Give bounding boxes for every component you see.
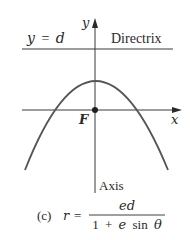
caption-eq: = [74, 208, 81, 223]
directrix-equation-lhs: y [26, 30, 36, 46]
axis-label: Axis [99, 178, 124, 193]
y-axis-label: y [81, 15, 90, 30]
directrix-equation-eq: = [41, 31, 49, 46]
directrix-equation-label: y = d [26, 30, 65, 46]
caption-denominator-theta: θ [154, 217, 162, 232]
caption-denominator-plus: + [105, 217, 112, 232]
caption-numerator: ed [119, 198, 135, 213]
focus-point [92, 107, 98, 113]
caption-denominator-one: 1 [92, 217, 99, 232]
directrix-label: Directrix [111, 31, 162, 46]
caption-denominator: 1 + e sin θ [92, 217, 162, 232]
caption: (c) r = ed 1 + e sin θ [37, 198, 165, 232]
parabola-curve [25, 81, 168, 170]
caption-lhs: r [63, 208, 70, 223]
caption-denominator-sin: sin [133, 217, 149, 232]
directrix-equation-rhs: d [56, 30, 65, 46]
caption-part-label: (c) [37, 208, 51, 223]
parabola-diagram: y = d Directrix y x F Axis (c) r = ed 1 … [0, 0, 190, 240]
y-axis-arrow-icon [92, 18, 98, 28]
x-axis-label: x [171, 112, 179, 127]
caption-denominator-e: e [119, 217, 127, 232]
focus-label: F [78, 112, 89, 127]
